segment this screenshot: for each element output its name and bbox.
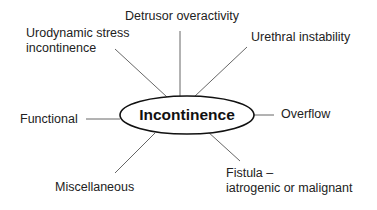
label-urodynamic-line2: incontinence <box>26 41 130 56</box>
label-fistula: Fistula – iatrogenic or malignant <box>226 166 352 196</box>
label-urodynamic: Urodynamic stress incontinence <box>26 26 130 56</box>
center-label: Incontinence <box>121 96 253 134</box>
connector-urodynamic <box>115 49 167 97</box>
label-detrusor: Detrusor overactivity <box>125 9 239 24</box>
label-fistula-line2: iatrogenic or malignant <box>226 181 352 196</box>
connector-urethral <box>194 47 247 97</box>
label-urethral: Urethral instability <box>251 30 350 45</box>
connector-fistula <box>207 131 240 161</box>
label-functional: Functional <box>20 112 78 127</box>
label-fistula-line1: Fistula – <box>226 166 352 181</box>
connector-miscellaneous <box>115 133 155 173</box>
label-overflow: Overflow <box>281 107 330 122</box>
label-miscellaneous: Miscellaneous <box>55 180 134 195</box>
label-urodynamic-line1: Urodynamic stress <box>26 26 130 41</box>
